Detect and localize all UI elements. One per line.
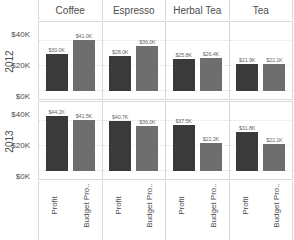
small-multiples-bar-chart: Coffee Espresso Herbal Tea Tea 2012 2013… [0, 0, 293, 240]
panel-espresso-2013: $40.7K$36.0K [102, 102, 166, 179]
measure-label-budget-pro[interactable]: Budget Pro.. [265, 181, 287, 240]
bar-profit[interactable] [46, 54, 68, 91]
column-header-tea: Tea [229, 0, 294, 20]
bar-value-label: $36.0K [139, 119, 155, 125]
ytick-2012-20k: $20K [4, 61, 30, 70]
bar-group-herbal-tea-budget-pro-2012[interactable]: $26.4K [200, 22, 222, 99]
bar-value-label: $22.2K [203, 136, 219, 142]
bar-group-coffee-profit-2012[interactable]: $30.0K [46, 22, 68, 99]
measure-label-budget-pro[interactable]: Budget Pro.. [138, 181, 160, 240]
bar-group-tea-profit-2012[interactable]: $21.9K [236, 22, 258, 99]
measure-label-budget-pro[interactable]: Budget Pro.. [75, 181, 97, 240]
ytick-2013-20k-text: $20K [11, 141, 30, 150]
ytick-2012-0k-text: $0K [16, 92, 30, 101]
bar-group-espresso-profit-2013[interactable]: $40.7K [109, 102, 131, 179]
bar-value-label: $26.4K [203, 51, 219, 57]
ytick-2012-0k: $0K [4, 92, 30, 101]
bar-budget-pro[interactable] [200, 58, 222, 91]
bar-group-tea-budget-pro-2013[interactable]: $22.1K [263, 102, 285, 179]
bar-group-herbal-tea-budget-pro-2013[interactable]: $22.2K [200, 102, 222, 179]
bar-group-coffee-budget-pro-2012[interactable]: $41.0K [73, 22, 95, 99]
measure-labels-espresso: ProfitBudget Pro.. [102, 181, 166, 240]
bar-value-label: $28.0K [112, 49, 128, 55]
bar-budget-pro[interactable] [263, 64, 285, 91]
panel-herbal-tea-2012: $25.8K$26.4K [165, 22, 229, 99]
measure-label-profit[interactable]: Profit [107, 181, 129, 240]
column-header-espresso: Espresso [102, 0, 166, 20]
bar-value-label: $22.1K [266, 137, 282, 143]
bar-group-coffee-profit-2013[interactable]: $44.2K [46, 102, 68, 179]
bar-budget-pro[interactable] [73, 120, 95, 171]
bar-profit[interactable] [236, 132, 258, 171]
bar-group-coffee-budget-pro-2013[interactable]: $41.5K [73, 102, 95, 179]
bar-value-label: $36.0K [139, 39, 155, 45]
ytick-2012-40k: $40K [4, 30, 30, 39]
ytick-2013-0k: $0K [4, 172, 30, 181]
measure-label-budget-pro[interactable]: Budget Pro.. [202, 181, 224, 240]
measure-label-text: Profit [50, 196, 59, 215]
bar-value-label: $44.2K [49, 109, 65, 115]
measure-label-text: Budget Pro.. [208, 183, 217, 227]
measure-labels-coffee: ProfitBudget Pro.. [38, 181, 102, 240]
measure-label-text: Budget Pro.. [145, 183, 154, 227]
bar-budget-pro[interactable] [200, 143, 222, 171]
panel-herbal-tea-2013: $37.5K$22.2K [165, 102, 229, 179]
measure-label-text: Budget Pro.. [272, 183, 281, 227]
ytick-2013-40k: $40K [4, 110, 30, 119]
bar-value-label: $37.5K [176, 118, 192, 124]
measure-labels-herbal-tea: ProfitBudget Pro.. [165, 181, 229, 240]
bar-value-label: $30.0K [49, 47, 65, 53]
bar-group-tea-profit-2013[interactable]: $31.8K [236, 102, 258, 179]
column-header-herbal-tea: Herbal Tea [165, 0, 229, 20]
bar-group-herbal-tea-profit-2012[interactable]: $25.8K [173, 22, 195, 99]
bar-profit[interactable] [173, 125, 195, 172]
measure-label-text: Budget Pro.. [81, 183, 90, 227]
ytick-2012-20k-text: $20K [11, 61, 30, 70]
bar-profit[interactable] [46, 116, 68, 171]
bar-value-label: $41.5K [76, 113, 92, 119]
ytick-2013-40k-text: $40K [11, 110, 30, 119]
bar-profit[interactable] [109, 56, 131, 91]
column-header-row: Coffee Espresso Herbal Tea Tea [38, 0, 293, 20]
measure-label-row: ProfitBudget Pro..ProfitBudget Pro..Prof… [38, 181, 293, 240]
measure-label-text: Profit [241, 196, 250, 215]
bar-group-espresso-budget-pro-2013[interactable]: $36.0K [136, 102, 158, 179]
bar-profit[interactable] [109, 121, 131, 171]
bar-value-label: $31.8K [239, 125, 255, 131]
bar-value-label: $22.1K [266, 57, 282, 63]
panel-tea-2012: $21.9K$22.1K [229, 22, 294, 99]
bar-value-label: $41.0K [76, 33, 92, 39]
measure-label-profit[interactable]: Profit [234, 181, 256, 240]
bar-budget-pro[interactable] [73, 40, 95, 91]
bar-value-label: $40.7K [112, 114, 128, 120]
panel-espresso-2012: $28.0K$36.0K [102, 22, 166, 99]
panel-row-2012: $30.0K$41.0K$28.0K$36.0K$25.8K$26.4K$21.… [38, 21, 293, 100]
bar-budget-pro[interactable] [136, 46, 158, 91]
panel-row-2013: $44.2K$41.5K$40.7K$36.0K$37.5K$22.2K$31.… [38, 101, 293, 180]
bar-group-espresso-profit-2012[interactable]: $28.0K [109, 22, 131, 99]
measure-label-text: Profit [114, 196, 123, 215]
ytick-2012-40k-text: $40K [11, 30, 30, 39]
panel-coffee-2012: $30.0K$41.0K [38, 22, 102, 99]
bar-value-label: $21.9K [239, 57, 255, 63]
measure-label-text: Profit [177, 196, 186, 215]
bar-group-tea-budget-pro-2012[interactable]: $22.1K [263, 22, 285, 99]
panel-coffee-2013: $44.2K$41.5K [38, 102, 102, 179]
column-header-coffee: Coffee [38, 0, 102, 20]
bar-profit[interactable] [173, 59, 195, 91]
ytick-2013-0k-text: $0K [16, 172, 30, 181]
measure-label-profit[interactable]: Profit [171, 181, 193, 240]
measure-label-profit[interactable]: Profit [44, 181, 66, 240]
ytick-2013-20k: $20K [4, 141, 30, 150]
bar-budget-pro[interactable] [136, 126, 158, 171]
bar-group-espresso-budget-pro-2012[interactable]: $36.0K [136, 22, 158, 99]
bar-group-herbal-tea-profit-2013[interactable]: $37.5K [173, 102, 195, 179]
bar-profit[interactable] [236, 64, 258, 91]
bar-value-label: $25.8K [176, 52, 192, 58]
measure-labels-tea: ProfitBudget Pro.. [229, 181, 294, 240]
bar-budget-pro[interactable] [263, 144, 285, 171]
panel-tea-2013: $31.8K$22.1K [229, 102, 294, 179]
